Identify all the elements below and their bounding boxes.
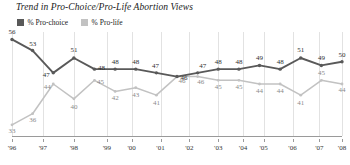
data-point	[72, 97, 75, 100]
data-point	[278, 67, 281, 70]
legend-swatch-pro-life-icon	[81, 19, 88, 26]
tick-mark	[132, 139, 133, 142]
data-point	[175, 75, 178, 78]
data-point	[114, 90, 117, 93]
data-point	[217, 67, 220, 70]
tick-mark	[319, 139, 320, 142]
data-point	[31, 112, 34, 115]
data-point	[134, 67, 137, 70]
series-lines	[12, 32, 342, 136]
data-point	[11, 123, 14, 126]
data-point	[299, 94, 302, 97]
series-line-pro-choice	[12, 39, 342, 76]
legend-swatch-pro-choice-icon	[17, 19, 24, 26]
series-line-pro-life	[12, 77, 342, 125]
data-point	[155, 71, 158, 74]
data-point	[72, 56, 75, 59]
tick-label: '99	[103, 144, 111, 152]
tick-mark	[189, 139, 190, 142]
data-point	[196, 75, 199, 78]
data-point	[155, 94, 158, 97]
data-point	[340, 60, 343, 63]
data-point	[237, 67, 240, 70]
tick-label: '08	[338, 144, 346, 152]
data-point	[113, 67, 116, 70]
tick-label: '05	[259, 144, 267, 152]
tick-mark	[243, 139, 244, 142]
data-point	[52, 83, 55, 86]
legend-label-pro-choice: % Pro-choice	[28, 18, 69, 27]
legend-item-pro-life: % Pro-life	[81, 18, 123, 27]
data-point	[93, 79, 96, 82]
legend-label-pro-life: % Pro-life	[92, 18, 123, 27]
tick-label: '01	[156, 144, 164, 152]
data-point	[52, 71, 55, 74]
tick-label: '97	[39, 144, 47, 152]
data-point	[237, 79, 240, 82]
tick-label: '04	[239, 144, 247, 152]
tick-label: '02	[185, 144, 193, 152]
tick-mark	[293, 139, 294, 142]
tick-label: '07	[315, 144, 323, 152]
legend-item-pro-choice: % Pro-choice	[17, 18, 68, 27]
data-point	[258, 83, 261, 86]
tick-label: '96	[8, 144, 16, 152]
data-point	[258, 64, 261, 67]
tick-mark	[218, 139, 219, 142]
tick-mark	[264, 139, 265, 142]
data-point	[93, 67, 96, 70]
data-point	[320, 64, 323, 67]
chart-container: Trend in Pro-Choice/Pro-Life Abortion Vi…	[0, 0, 350, 165]
chart-legend: % Pro-choice % Pro-life	[17, 18, 123, 27]
tick-label: '00	[127, 144, 135, 152]
data-point	[134, 86, 137, 89]
data-point	[10, 38, 13, 41]
data-point	[299, 56, 302, 59]
tick-label: '06	[288, 144, 296, 152]
data-point	[217, 79, 220, 82]
tick-label: '03	[214, 144, 222, 152]
tick-mark	[342, 139, 343, 142]
chart-title: Trend in Pro-Choice/Pro-Life Abortion Vi…	[16, 2, 193, 12]
x-axis-line	[12, 136, 342, 137]
tick-mark	[43, 139, 44, 142]
data-point	[31, 49, 34, 52]
tick-mark	[12, 139, 13, 142]
tick-mark	[161, 139, 162, 142]
tick-mark	[74, 139, 75, 142]
tick-mark	[107, 139, 108, 142]
x-axis-ticks: '96'97'98'99'00'01'02'03'04'05'06'07'08	[12, 139, 342, 159]
data-point	[320, 79, 323, 82]
plot-area: 3336444045424341464645454444414544565347…	[12, 32, 342, 136]
tick-label: '98	[70, 144, 78, 152]
data-point	[279, 83, 282, 86]
data-point	[196, 71, 199, 74]
data-point	[341, 83, 344, 86]
